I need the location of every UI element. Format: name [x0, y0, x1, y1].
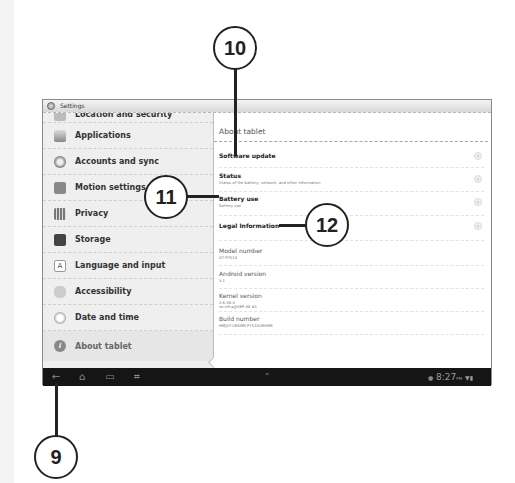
battery-use-row[interactable]: Battery use Battery use ›: [214, 191, 488, 215]
status-row[interactable]: Status Status of the battery, network, a…: [214, 167, 488, 191]
notification-icon: ●: [428, 374, 433, 381]
recent-apps-button[interactable]: ▭: [103, 370, 117, 384]
callout-9: 9: [34, 435, 78, 479]
sidebar-item-about-tablet[interactable]: i About tablet: [43, 331, 213, 361]
callout-10: 10: [213, 26, 257, 70]
battery-icon: ▮: [470, 374, 473, 381]
divider: [219, 265, 484, 266]
row-subtitle: Battery use: [219, 203, 241, 208]
sidebar-item-label: Accessibility: [75, 287, 131, 296]
clock-ampm: PM: [456, 376, 462, 381]
callout-9-leader: [55, 383, 58, 437]
home-button[interactable]: ⌂: [75, 370, 89, 384]
info-title: Android version: [219, 270, 266, 277]
sidebar-item-storage[interactable]: Storage: [43, 227, 213, 253]
clock-icon: [54, 312, 66, 324]
row-title: Status: [219, 172, 241, 179]
title-bar: Settings: [43, 100, 491, 113]
settings-window: Settings Location and security Applicati…: [42, 99, 492, 385]
sidebar-item-location[interactable]: Location and security: [43, 113, 213, 123]
sidebar-item-applications[interactable]: Applications: [43, 123, 213, 149]
settings-app-icon: [47, 102, 55, 110]
info-icon: i: [54, 340, 66, 352]
sidebar-item-accessibility[interactable]: Accessibility: [43, 279, 213, 305]
sidebar-item-label: Date and time: [75, 313, 139, 322]
sidebar-item-label: About tablet: [75, 342, 132, 351]
row-subtitle: Status of the battery, network, and othe…: [219, 180, 320, 185]
row-title: Legal Information: [219, 222, 279, 229]
chevron-right-icon: ›: [474, 152, 482, 160]
back-button[interactable]: ←: [49, 370, 63, 384]
software-update-row[interactable]: Software update ›: [214, 143, 488, 167]
chevron-right-icon: ›: [474, 175, 482, 183]
divider: [219, 288, 484, 289]
sync-icon: [54, 156, 66, 168]
accessibility-icon: [54, 286, 66, 298]
sidebar-item-accounts[interactable]: Accounts and sync: [43, 149, 213, 175]
callout-10-leader: [234, 68, 237, 156]
row-title: Software update: [219, 152, 275, 159]
screenshot-button[interactable]: ⌗: [130, 370, 144, 384]
row-title: Battery use: [219, 195, 258, 202]
sidebar-item-label: Motion settings: [75, 183, 146, 192]
divider: [219, 240, 484, 241]
pane-title: About tablet: [219, 127, 266, 136]
sidebar-item-label: Applications: [75, 131, 131, 140]
motion-icon: [54, 182, 66, 194]
sidebar-item-label: Language and input: [75, 261, 165, 270]
callout-12: 12: [305, 203, 349, 247]
info-value: 3.1: [219, 278, 225, 283]
callout-11-leader: [186, 195, 219, 198]
divider: [219, 311, 484, 312]
location-icon: [54, 113, 66, 121]
system-nav-bar: ← ⌂ ▭ ⌗ ⌃ ● 8:27PM ▼▮: [43, 368, 491, 386]
sidebar-item-language[interactable]: A Language and input: [43, 253, 213, 279]
page-margin: [0, 0, 14, 483]
chevron-right-icon: ›: [474, 222, 482, 230]
window-title: Settings: [60, 102, 85, 109]
header-divider: [214, 141, 488, 142]
about-tablet-pane: About tablet Software update › Status St…: [214, 113, 491, 368]
mini-apps-tray-button[interactable]: ⌃: [260, 370, 274, 384]
info-value: GT-P7510: [219, 255, 237, 260]
info-title: Model number: [219, 247, 262, 254]
clock-time: 8:27: [436, 372, 456, 382]
sidebar-item-label: Location and security: [75, 113, 172, 119]
callout-12-leader: [279, 224, 307, 227]
divider: [219, 334, 484, 335]
status-clock[interactable]: ● 8:27PM ▼▮: [428, 371, 473, 385]
legal-information-row[interactable]: Legal Information ›: [214, 215, 488, 239]
storage-icon: [54, 234, 66, 246]
language-icon: A: [54, 260, 66, 272]
sidebar-item-date-time[interactable]: Date and time: [43, 305, 213, 331]
sidebar-item-label: Storage: [75, 235, 111, 244]
applications-icon: [54, 130, 66, 142]
info-title: Kernel version: [219, 292, 262, 299]
sidebar-item-label: Privacy: [75, 209, 108, 218]
info-value: se.infra@SEP-48 #1: [219, 304, 257, 309]
callout-11: 11: [144, 175, 188, 219]
sidebar-item-label: Accounts and sync: [75, 157, 159, 166]
settings-sidebar: Location and security Applications Accou…: [43, 113, 214, 368]
info-value: HMJ37.UEKMB P7510UEKMB: [219, 323, 273, 328]
sidebar-item-privacy[interactable]: Privacy: [43, 201, 213, 227]
info-title: Build number: [219, 315, 259, 322]
chevron-right-icon: ›: [474, 198, 482, 206]
privacy-icon: [54, 208, 66, 220]
